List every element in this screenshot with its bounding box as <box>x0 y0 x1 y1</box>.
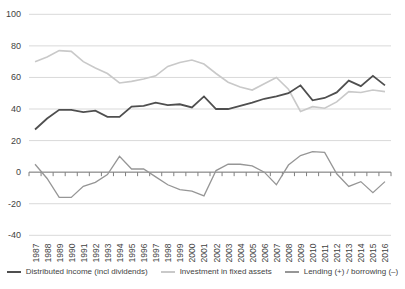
legend-item-investment-fixed-assets: Investment in fixed assets <box>161 267 272 276</box>
x-axis-label: 1988 <box>43 243 53 262</box>
x-axis-label: 2013 <box>344 243 354 262</box>
x-axis-label: 1992 <box>91 243 101 262</box>
y-axis-label: 0 <box>16 167 21 177</box>
y-axis-label: 40 <box>11 104 21 114</box>
x-axis-label: 1998 <box>163 243 173 262</box>
x-axis-label: 2006 <box>260 243 270 262</box>
y-axis-label: -20 <box>8 199 21 209</box>
x-axis-label: 2014 <box>356 243 366 262</box>
y-axis-label: 100 <box>6 9 21 19</box>
y-axis-label: 20 <box>11 136 21 146</box>
x-axis-label: 2011 <box>320 244 330 263</box>
x-axis-label: 2015 <box>368 243 378 262</box>
x-axis-label: 1989 <box>55 243 65 262</box>
x-axis-label: 1996 <box>139 243 149 262</box>
distributed-income-line-swatch <box>7 271 21 273</box>
y-axis-label: 80 <box>11 41 21 51</box>
legend-item-lending-borrowing: Lending (+) / borrowing (–) <box>285 267 399 276</box>
x-axis-label: 1995 <box>127 243 137 262</box>
x-axis-label: 2003 <box>224 243 234 262</box>
x-axis-label: 2007 <box>272 243 282 262</box>
x-axis-label: 2008 <box>284 243 294 262</box>
x-axis-label: 1993 <box>103 243 113 262</box>
x-axis-label: 2016 <box>380 243 390 262</box>
legend-label: Lending (+) / borrowing (–) <box>304 267 399 276</box>
investment-fixed-assets-line-swatch <box>161 271 175 273</box>
plot-area: 100806040200-20-401987198819891990199119… <box>0 0 405 265</box>
x-axis-label: 1999 <box>175 243 185 262</box>
legend-label: Distributed income (incl dividends) <box>26 267 148 276</box>
x-axis-label: 1990 <box>67 243 77 262</box>
x-axis-label: 2009 <box>296 243 306 262</box>
legend: Distributed income (incl dividends) Inve… <box>0 267 405 276</box>
x-axis-label: 2010 <box>308 243 318 262</box>
line-chart: 100806040200-20-401987198819891990199119… <box>0 0 405 265</box>
x-axis-label: 1987 <box>31 243 41 262</box>
y-axis-label: 60 <box>11 72 21 82</box>
x-axis-label: 2005 <box>248 243 258 262</box>
x-axis-label: 2000 <box>187 243 197 262</box>
x-axis-label: 1997 <box>151 243 161 262</box>
x-axis-label: 2001 <box>199 243 209 262</box>
distributed-income-line <box>35 76 385 130</box>
x-axis-label: 1994 <box>115 243 125 262</box>
lending-borrowing-line-swatch <box>285 271 299 273</box>
y-axis-label: -40 <box>8 230 21 240</box>
legend-item-distributed-income: Distributed income (incl dividends) <box>7 267 148 276</box>
x-axis-label: 2012 <box>332 243 342 262</box>
legend-label: Investment in fixed assets <box>180 267 272 276</box>
x-axis-label: 1991 <box>79 243 89 262</box>
x-axis-label: 2004 <box>236 243 246 262</box>
x-axis-label: 2002 <box>212 243 222 262</box>
